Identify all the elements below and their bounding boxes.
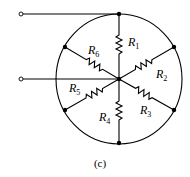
resistor-r4 [116, 79, 122, 143]
lower-left-node [63, 108, 67, 112]
label-r1: R1 [127, 35, 139, 51]
label-r3: R3 [139, 103, 151, 119]
lower-right-node [172, 108, 176, 112]
terminal-a [19, 12, 23, 16]
figure-caption: (c) [94, 157, 107, 170]
resistor-r1 [116, 14, 122, 79]
upper-left-node [63, 45, 67, 49]
top-node [117, 12, 121, 16]
bottom-node [117, 141, 121, 145]
label-r5: R5 [68, 81, 80, 97]
center-node [117, 77, 121, 81]
upper-right-node [172, 45, 176, 49]
terminal-b [19, 77, 23, 81]
label-r4: R4 [98, 110, 110, 126]
label-r2: R2 [155, 67, 167, 83]
circuit-diagram: R1 R2 R3 R4 R5 R6 (c) [0, 0, 190, 177]
label-r6: R6 [87, 43, 99, 59]
